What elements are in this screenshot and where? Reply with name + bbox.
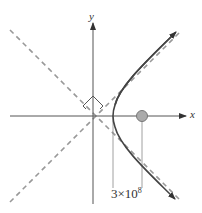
vertex-value-label: 3×108 [111,186,142,202]
hyperbola-diagram [0,0,202,213]
vertex-value-base: 3×10 [111,186,138,201]
asymptote-line-2 [10,33,179,202]
y-axis-label: y [89,10,94,22]
focus-point [137,111,148,122]
asymptote-line-1 [10,30,179,199]
vertex-value-exponent: 8 [138,186,142,195]
x-axis-label: x [190,108,195,120]
